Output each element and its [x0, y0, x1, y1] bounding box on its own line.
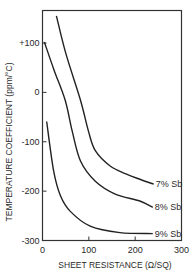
- curve-7sb: [56, 16, 153, 184]
- x-tick-label: 0: [40, 245, 45, 255]
- y-axis-label: TEMPERATURE COEFFICIENT (ppm/°C): [4, 62, 14, 221]
- chart: 0100200300 +1000-100-200-300 7% Sb8% Sb9…: [0, 0, 192, 272]
- y-tick-label: -100: [21, 137, 39, 147]
- x-tick-label: 300: [174, 245, 189, 255]
- curve-8sb: [44, 42, 152, 207]
- curve-label: 7% Sb: [156, 179, 183, 189]
- x-axis-label: SHEET RESISTANCE (Ω/SQ): [58, 260, 171, 270]
- curves: [44, 16, 153, 234]
- curve-labels: 7% Sb8% Sb9% Sb: [155, 179, 182, 238]
- y-tick-label: 0: [34, 87, 39, 97]
- y-tick-label: -200: [21, 186, 39, 196]
- x-tick-label: 200: [128, 245, 143, 255]
- y-tick-label: -300: [21, 236, 39, 246]
- curve-label: 9% Sb: [155, 229, 182, 239]
- y-tick-label: +100: [19, 38, 39, 48]
- x-tick-label: 100: [81, 245, 96, 255]
- curve-label: 8% Sb: [155, 202, 182, 212]
- x-ticks: 0100200300: [40, 237, 189, 255]
